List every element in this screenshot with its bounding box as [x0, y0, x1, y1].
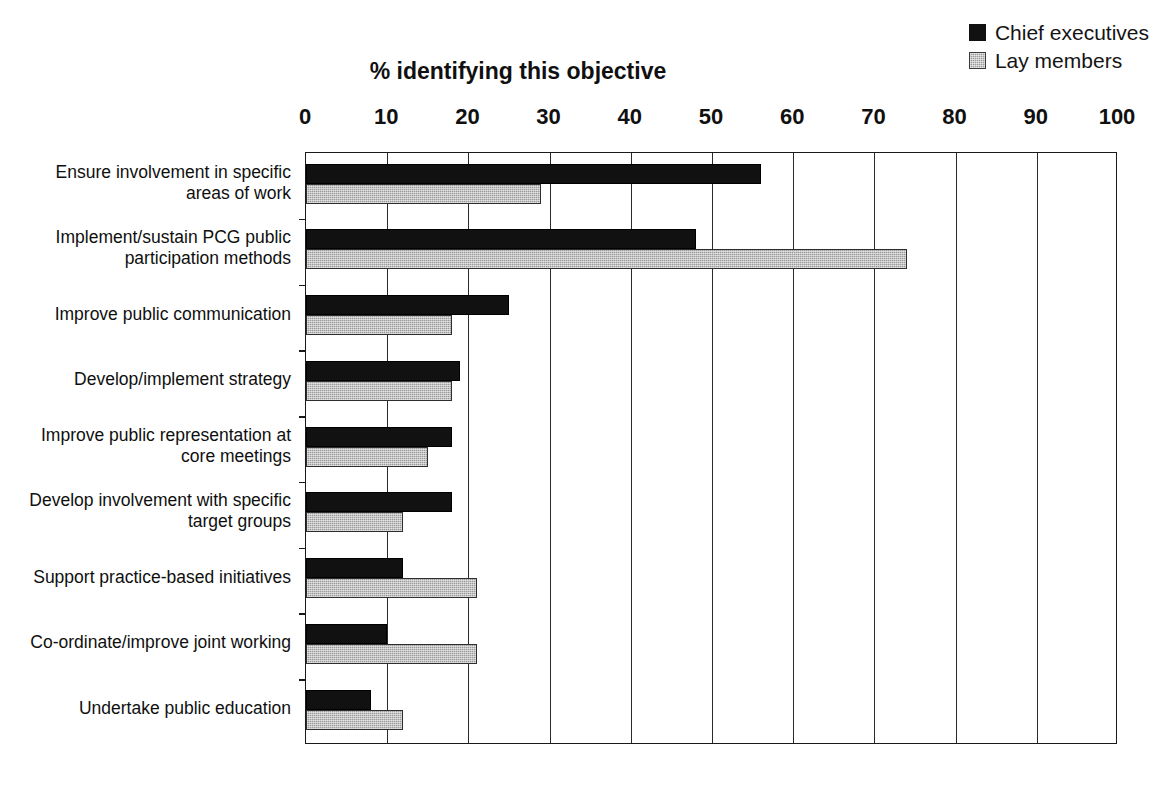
- y-axis-tickmark: [299, 679, 306, 681]
- bar-group: [306, 285, 1116, 351]
- y-axis-tickmark: [299, 350, 306, 352]
- category-label-line: Co-ordinate/improve joint working: [1, 632, 291, 653]
- bar-chief-executives: [306, 690, 371, 710]
- category-label-line: participation methods: [1, 248, 291, 269]
- category-label: Ensure involvement in specificareas of w…: [1, 162, 291, 204]
- category-label-line: core meetings: [1, 446, 291, 467]
- bar-lay-members: [306, 184, 541, 204]
- bar-group: [306, 153, 1116, 219]
- chart-plot-wrapper: Ensure involvement in specificareas of w…: [0, 0, 1163, 790]
- y-axis-tickmark: [299, 219, 306, 221]
- bar-group: [306, 613, 1116, 679]
- bar-group: [306, 350, 1116, 416]
- category-label-line: Support practice-based initiatives: [1, 567, 291, 588]
- category-label: Develop involvement with specifictarget …: [1, 490, 291, 532]
- y-axis-tickmark: [299, 482, 306, 484]
- category-label-line: areas of work: [1, 183, 291, 204]
- bar-group: [306, 548, 1116, 614]
- bar-lay-members: [306, 512, 403, 532]
- category-label: Implement/sustain PCG publicparticipatio…: [1, 227, 291, 269]
- category-label: Improve public communication: [1, 304, 291, 325]
- category-label-line: target groups: [1, 511, 291, 532]
- bar-lay-members: [306, 315, 452, 335]
- bar-group: [306, 219, 1116, 285]
- y-axis-tickmark: [299, 548, 306, 550]
- bar-chief-executives: [306, 492, 452, 512]
- category-label: Co-ordinate/improve joint working: [1, 632, 291, 653]
- bar-chief-executives: [306, 295, 509, 315]
- category-label-line: Develop/implement strategy: [1, 369, 291, 390]
- bar-lay-members: [306, 447, 428, 467]
- category-label-line: Improve public communication: [1, 304, 291, 325]
- bar-lay-members: [306, 644, 477, 664]
- category-label-line: Improve public representation at: [1, 425, 291, 446]
- category-label: Undertake public education: [1, 698, 291, 719]
- bar-lay-members: [306, 578, 477, 598]
- category-label: Develop/implement strategy: [1, 369, 291, 390]
- category-label-line: Undertake public education: [1, 698, 291, 719]
- bar-group: [306, 679, 1116, 745]
- bar-chief-executives: [306, 361, 460, 381]
- category-label-line: Develop involvement with specific: [1, 490, 291, 511]
- bar-lay-members: [306, 381, 452, 401]
- bar-chief-executives: [306, 624, 387, 644]
- bar-group: [306, 482, 1116, 548]
- category-label-line: Ensure involvement in specific: [1, 162, 291, 183]
- category-label: Improve public representation atcore mee…: [1, 425, 291, 467]
- bar-chief-executives: [306, 229, 696, 249]
- y-axis-tickmark: [299, 285, 306, 287]
- bar-lay-members: [306, 249, 907, 269]
- y-axis-tickmark: [299, 613, 306, 615]
- chart-plot-area: [305, 152, 1117, 744]
- category-label-line: Implement/sustain PCG public: [1, 227, 291, 248]
- bar-chief-executives: [306, 427, 452, 447]
- bar-group: [306, 416, 1116, 482]
- bar-lay-members: [306, 710, 403, 730]
- y-axis-tickmark: [299, 416, 306, 418]
- bar-chief-executives: [306, 164, 761, 184]
- category-label: Support practice-based initiatives: [1, 567, 291, 588]
- bar-chief-executives: [306, 558, 403, 578]
